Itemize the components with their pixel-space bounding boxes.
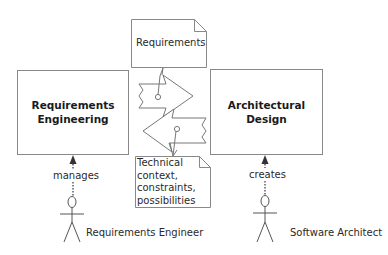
flow-arrow-right (139, 75, 193, 117)
requirements-engineer-actor-icon (60, 197, 84, 243)
creates-arrowhead-icon (262, 155, 269, 164)
technical-anchor-circle (174, 126, 179, 131)
architectural-design-title-line2: Design (210, 112, 323, 126)
architectural-design-title-line1: Architectural (210, 98, 323, 112)
technical-note-line1: Technical (137, 157, 196, 170)
requirements-engineer-label: Requirements Engineer (86, 227, 203, 239)
manages-label: manages (53, 170, 99, 182)
technical-note-line3: constraints, (137, 182, 196, 195)
requirements-anchor-circle (155, 94, 160, 99)
architectural-design-title: Architectural Design (210, 98, 323, 126)
creates-label: creates (249, 169, 286, 181)
requirements-engineering-title: Requirements Engineering (17, 98, 129, 126)
technical-note-label: Technical context, constraints, possibil… (137, 157, 196, 207)
requirements-engineering-title-line1: Requirements (17, 98, 129, 112)
software-architect-actor-icon (253, 196, 277, 243)
manages-arrowhead-icon (70, 155, 77, 164)
requirements-note-label: Requirements (136, 37, 206, 50)
technical-note-line4: possibilities (137, 195, 196, 208)
requirements-engineering-title-line2: Engineering (17, 112, 129, 126)
software-architect-label: Software Architect (290, 227, 382, 239)
technical-note-line2: context, (137, 170, 196, 183)
